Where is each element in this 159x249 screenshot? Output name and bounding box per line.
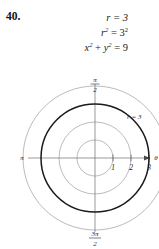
polar-axes — [28, 84, 150, 232]
axis-label-theta: θ — [154, 154, 158, 162]
polar-graph: 1 2 3 π 2 3π 2 π θ r = 3 — [14, 74, 159, 249]
three-pi-over-2-numerator: 3π — [90, 230, 99, 238]
equation-stack: r = 3 r2 = 32 x2 + y2 = 9 — [22, 10, 134, 55]
radial-tick-label-2: 2 — [129, 163, 133, 172]
radial-tick-label-1: 1 — [111, 163, 115, 172]
axis-label-pi: π — [20, 154, 24, 162]
equation-3-plus: + — [92, 42, 103, 53]
polar-graph-svg: 1 2 3 π 2 3π 2 π θ r = 3 — [14, 74, 159, 249]
equation-line-1: r = 3 — [22, 10, 134, 25]
equation-2-relation: = — [108, 27, 119, 38]
equation-line-3: x2 + y2 = 9 — [22, 40, 134, 55]
curve-annotation-r-equals-3: r = 3 — [127, 113, 142, 121]
axis-label-3pi-over-2: 3π 2 — [89, 230, 101, 248]
pi-over-2-denominator: 2 — [93, 86, 97, 94]
equation-2-rhs-exponent: 2 — [125, 26, 128, 33]
equation-3-relation: = — [112, 42, 123, 53]
equation-line-2: r2 = 32 — [22, 25, 134, 40]
figure-page: 40. r = 3 r2 = 32 x2 + y2 = 9 — [0, 0, 159, 249]
problem-number: 40. — [6, 10, 20, 22]
equation-1-text: r = 3 — [106, 12, 128, 23]
three-pi-over-2-denominator: 2 — [93, 240, 97, 248]
equation-3-rhs: 9 — [123, 42, 128, 53]
radial-tick-label-3: 3 — [146, 163, 151, 172]
pi-over-2-numerator: π — [93, 76, 97, 84]
